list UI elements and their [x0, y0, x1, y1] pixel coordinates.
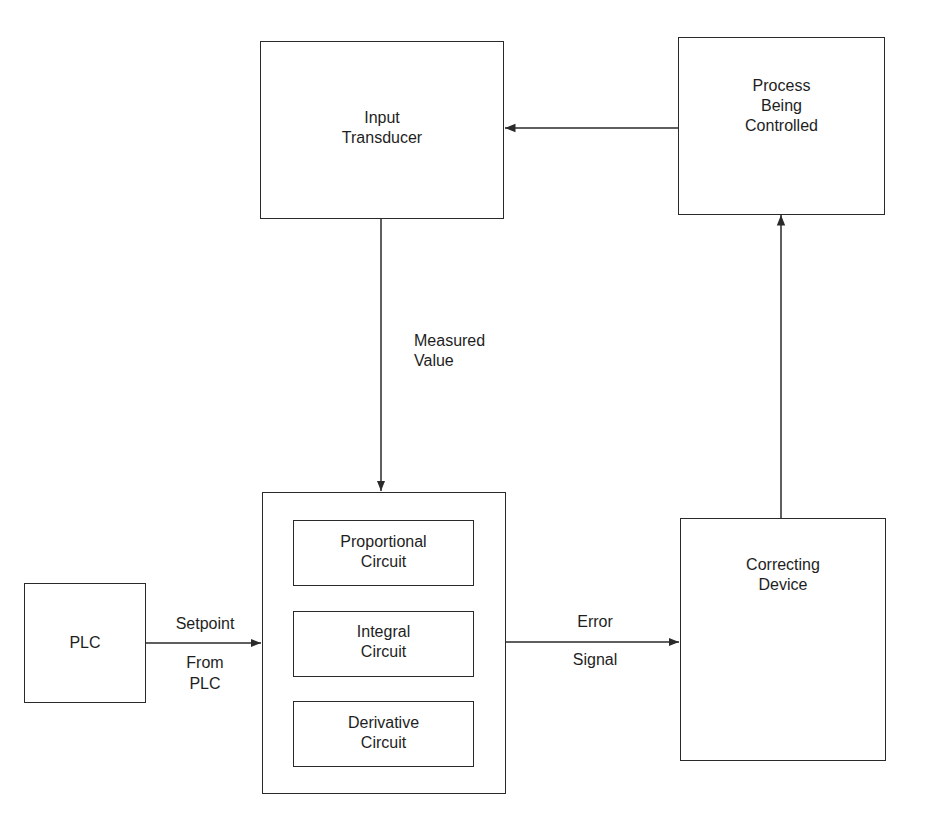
- process-line1: Process: [678, 76, 885, 96]
- correcting-line1: Correcting: [680, 555, 886, 575]
- input-transducer-label: Input Transducer: [260, 108, 504, 148]
- integral-circuit-label: Integral Circuit: [293, 622, 474, 662]
- integral-line2: Circuit: [293, 642, 474, 662]
- plc-label: PLC: [24, 633, 146, 653]
- input-transducer-line1: Input: [260, 108, 504, 128]
- measured-value-label: Measured Value: [414, 331, 485, 371]
- process-line2: Being: [678, 96, 885, 116]
- error-above: Error: [550, 612, 640, 632]
- setpoint-above: Setpoint: [160, 614, 250, 634]
- process-line3: Controlled: [678, 116, 885, 136]
- derivative-line2: Circuit: [293, 733, 474, 753]
- plc-line1: PLC: [24, 633, 146, 653]
- proportional-circuit-label: Proportional Circuit: [293, 532, 474, 572]
- integral-line1: Integral: [293, 622, 474, 642]
- error-label: Error: [550, 612, 640, 632]
- setpoint-below2: PLC: [160, 673, 250, 694]
- setpoint-label: Setpoint: [160, 614, 250, 634]
- proportional-line2: Circuit: [293, 552, 474, 572]
- derivative-line1: Derivative: [293, 713, 474, 733]
- process-label: Process Being Controlled: [678, 76, 885, 136]
- input-transducer-line2: Transducer: [260, 128, 504, 148]
- correcting-device-label: Correcting Device: [680, 555, 886, 595]
- correcting-line2: Device: [680, 575, 886, 595]
- proportional-line1: Proportional: [293, 532, 474, 552]
- setpoint-source-label: From PLC: [160, 652, 250, 694]
- error-below: Signal: [550, 650, 640, 670]
- setpoint-below1: From: [160, 652, 250, 673]
- signal-label: Signal: [550, 650, 640, 670]
- measured-value-line1: Measured: [414, 331, 485, 351]
- measured-value-line2: Value: [414, 351, 485, 371]
- derivative-circuit-label: Derivative Circuit: [293, 713, 474, 753]
